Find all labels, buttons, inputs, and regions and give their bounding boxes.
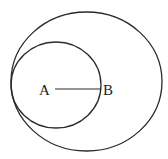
point-b-label: B: [103, 82, 113, 98]
point-a-label: A: [39, 82, 50, 98]
large-circle: [11, 12, 162, 151]
small-circle: [11, 42, 101, 128]
geometry-diagram: A B: [0, 0, 168, 159]
